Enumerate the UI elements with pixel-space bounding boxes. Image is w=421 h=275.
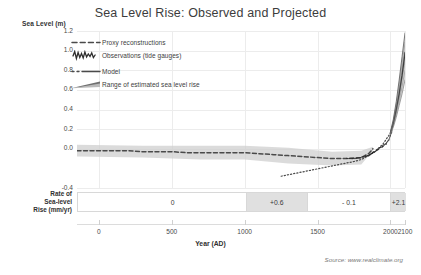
- legend-symbol-dash-dot-line-icon: [70, 66, 102, 77]
- legend-symbol-wedge-band-icon: [70, 79, 102, 90]
- legend-label: Proxy reconstructions: [102, 39, 166, 46]
- x-tick-label: 1000: [237, 228, 252, 235]
- source-note: Source: www.realclimate.org: [325, 256, 403, 263]
- y-tick-label: 0.8: [40, 66, 73, 73]
- gridline-horizontal: [77, 188, 405, 189]
- x-tick-mark: [390, 220, 391, 225]
- x-tick-mark: [405, 220, 406, 225]
- legend-symbol-dashed-line-icon: [70, 37, 102, 48]
- x-tick-label: 2100: [398, 228, 413, 235]
- rate-label-line-0: Rate of: [14, 190, 72, 198]
- rate-segment: +2.1: [390, 193, 406, 211]
- x-tick-mark: [245, 220, 246, 225]
- y-tick-label: 0.6: [40, 85, 73, 92]
- y-tick-label: 0.0: [40, 144, 73, 151]
- rate-label-line-1: Sea-level: [14, 198, 72, 206]
- legend-item: Observations (tide gauges): [70, 49, 181, 61]
- rate-label-line-2: Rise (mm/yr): [14, 206, 72, 214]
- rate-row-label: Rate of Sea-level Rise (mm/yr): [14, 190, 72, 215]
- legend-label: Range of estimated sea level rise: [102, 81, 200, 88]
- x-tick-label: 0: [97, 228, 101, 235]
- x-axis-title: Year (AD): [0, 240, 421, 247]
- rate-segment-value: - 0.1: [342, 199, 356, 206]
- rate-segment-value: 0: [171, 199, 175, 206]
- rate-segment: - 0.1: [307, 193, 390, 211]
- legend-item: Proxy reconstructions: [70, 36, 166, 48]
- rate-segment: 0: [100, 193, 246, 211]
- rate-segment-value: +2.1: [392, 199, 405, 206]
- band-proxy-uncertainty-band: [77, 145, 373, 166]
- legend-label: Model: [102, 68, 120, 75]
- rate-segment-value: +0.6: [270, 199, 283, 206]
- gridline-vertical: [405, 31, 406, 188]
- x-tick-label: 2000: [383, 228, 398, 235]
- y-tick-label: 1.0: [40, 46, 73, 53]
- legend: Proxy reconstructionsObservations (tide …: [70, 36, 360, 94]
- y-tick-label: 0.4: [40, 105, 73, 112]
- rate-bar: 0+0.6- 0.1+2.1: [77, 192, 405, 212]
- legend-item: Range of estimated sea level rise: [70, 78, 200, 90]
- x-tick-mark: [318, 220, 319, 225]
- x-tick-mark: [99, 220, 100, 225]
- y-tick-label: 0.2: [40, 125, 73, 132]
- x-tick-label: 500: [166, 228, 177, 235]
- rate-segment: +0.6: [246, 193, 307, 211]
- y-tick-label: 1.2: [40, 27, 73, 34]
- x-tick-label: 1500: [310, 228, 325, 235]
- legend-symbol-jagged-line-icon: [70, 50, 102, 61]
- chart-title: Sea Level Rise: Observed and Projected: [0, 6, 421, 20]
- x-tick-mark: [172, 220, 173, 225]
- sea-level-chart: Sea Level Rise: Observed and Projected S…: [0, 0, 421, 275]
- legend-item: Model: [70, 65, 120, 77]
- legend-label: Observations (tide gauges): [102, 52, 181, 59]
- x-axis-line: [77, 224, 405, 225]
